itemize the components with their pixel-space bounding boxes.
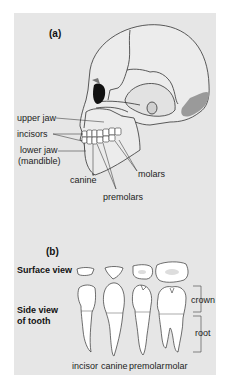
- molar-side: [157, 287, 186, 352]
- molar-label: molar: [165, 361, 188, 371]
- crown-label: crown: [191, 295, 215, 305]
- premolars-label: premolars: [103, 192, 143, 202]
- surface-view-label: Surface view: [17, 265, 72, 275]
- premolar-label: premolar: [129, 361, 165, 371]
- canine-side: [103, 283, 124, 356]
- side-view-label: Side view: [17, 305, 58, 315]
- incisor-side: [78, 285, 96, 352]
- molars-label: molars: [138, 169, 165, 179]
- lower-jaw-label: lower jaw: [20, 145, 58, 155]
- incisors-label: incisors: [17, 129, 48, 139]
- upper-jaw-label: upper jaw: [17, 113, 56, 123]
- incisor-surface: [77, 268, 94, 276]
- canine-surface: [105, 267, 123, 280]
- root-label: root: [195, 328, 211, 338]
- of-tooth-label: of tooth: [17, 316, 50, 326]
- canine-label: canine: [70, 175, 97, 185]
- incisor-label: incisor: [72, 361, 98, 371]
- part-b-label: (b): [46, 246, 59, 257]
- side-views: [78, 283, 186, 356]
- mandible-label: (mandible): [18, 156, 61, 166]
- part-a-label: (a): [49, 28, 61, 39]
- canine-tooth-label: canine: [101, 361, 128, 371]
- premolar-side: [132, 285, 151, 355]
